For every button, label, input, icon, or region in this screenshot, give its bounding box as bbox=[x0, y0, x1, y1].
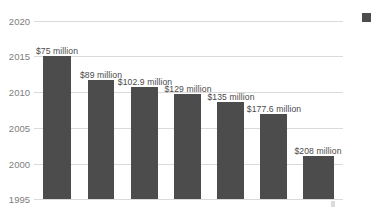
plot-area: $75 million $89 million $102.9 million $… bbox=[34, 14, 343, 199]
y-tick-label: 2020 bbox=[0, 16, 30, 27]
bar-value-label: $135 million bbox=[207, 92, 254, 102]
bar[interactable] bbox=[303, 156, 334, 199]
y-tick-label: 2010 bbox=[0, 87, 30, 98]
y-tick-label: 2000 bbox=[0, 159, 30, 170]
legend-color-swatch[interactable] bbox=[362, 13, 371, 22]
baseline-gridline bbox=[34, 199, 343, 200]
y-tick-label: 2015 bbox=[0, 51, 30, 62]
bar-value-label: $177.6 million bbox=[247, 104, 301, 114]
bar[interactable] bbox=[88, 80, 114, 199]
axis-tick-mark bbox=[331, 201, 335, 207]
bar[interactable] bbox=[43, 56, 71, 199]
bar[interactable] bbox=[131, 87, 158, 199]
bar-value-label: $129 million bbox=[164, 84, 211, 94]
bar-value-label: $89 million bbox=[80, 70, 122, 80]
bar-value-label: $75 million bbox=[36, 46, 78, 56]
bar-chart: 2020 2015 2010 2005 2000 1995 bbox=[0, 0, 377, 220]
bar-value-label: $208 million bbox=[294, 146, 341, 156]
y-tick-label: 1995 bbox=[0, 194, 30, 205]
bar[interactable] bbox=[174, 94, 201, 199]
bar[interactable] bbox=[260, 114, 287, 199]
y-tick-label: 2005 bbox=[0, 123, 30, 134]
bar[interactable] bbox=[217, 102, 244, 199]
